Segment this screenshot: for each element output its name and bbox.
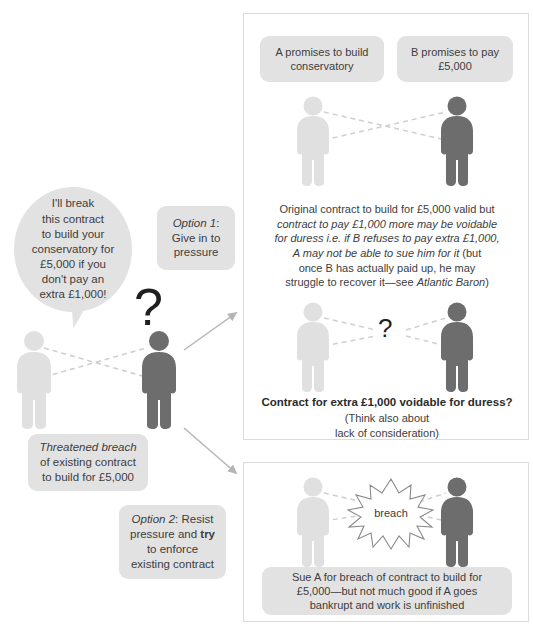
panel2-actors-svg: breach xyxy=(291,477,491,569)
dashed-promise-links xyxy=(324,112,446,140)
explanation-line: for duress i.e. if B refuses to pay extr… xyxy=(252,231,522,246)
option-2-panel: breach Sue A for breach of contract to b… xyxy=(243,462,529,622)
figure-b-dark xyxy=(441,303,473,393)
panel1-actors-top xyxy=(291,96,491,188)
explanation-line: contract to pay £1,000 more may be voida… xyxy=(252,217,522,232)
figure-a-light xyxy=(297,478,329,568)
figure-a-light xyxy=(297,97,329,187)
outcome-line: Sue A for breach of contract to build fo… xyxy=(268,570,506,584)
duress-explanation: Original contract to build for £5,000 va… xyxy=(252,202,522,290)
explanation-line: A may not be able to sue him for it (but xyxy=(252,246,522,261)
duress-conclusion: Contract for extra £1,000 voidable for d… xyxy=(250,395,524,410)
duress-conclusion-sub: (Think also about lack of consideration) xyxy=(250,411,524,440)
panel1-actors-top-svg xyxy=(291,96,491,188)
breach-burst-label: breach xyxy=(374,507,408,519)
promise-b-box: B promises to pay £5,000 xyxy=(397,36,513,82)
outcome-line: bankrupt and work is unfinished xyxy=(268,598,506,612)
figure-a-light xyxy=(297,303,329,393)
arrow-to-option-1-panel xyxy=(184,313,236,350)
duress-flow-diagram: { "diagram": { "title": "Economic duress… xyxy=(0,0,533,633)
outcome-box: Sue A for breach of contract to build fo… xyxy=(262,567,512,615)
option-1-panel: A promises to build conservatory B promi… xyxy=(243,13,529,440)
conclusion-sub-line: (Think also about xyxy=(250,411,524,426)
figure-b-dark xyxy=(441,478,473,568)
promise-b-line: B promises to pay xyxy=(403,45,507,59)
promise-a-box: A promises to build conservatory xyxy=(260,36,384,82)
outcome-line: £5,000—but not much good if A goes xyxy=(268,584,506,598)
explanation-line: struggle to recover it—see Atlantic Baro… xyxy=(252,275,522,290)
arrow-to-option-2-panel xyxy=(184,428,236,473)
promise-a-line: A promises to build xyxy=(266,45,378,59)
conclusion-sub-line: lack of consideration) xyxy=(250,426,524,441)
promise-a-line: conservatory xyxy=(266,59,378,73)
explanation-line: once B has actually paid up, he may xyxy=(252,261,522,276)
panel2-actors: breach xyxy=(291,477,491,569)
explanation-line: Original contract to build for £5,000 va… xyxy=(252,202,522,217)
figure-b-dark xyxy=(441,97,473,187)
promise-b-line: £5,000 xyxy=(403,59,507,73)
panel1-question-mark: ? xyxy=(378,315,392,341)
